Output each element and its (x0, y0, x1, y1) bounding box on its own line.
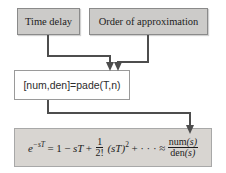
ellipsis: · · · (140, 142, 157, 154)
plus-sign: + (86, 142, 92, 154)
order-of-approximation-box: Order of approximation (89, 8, 208, 35)
approx-sign: ≈ (159, 142, 165, 154)
fraction-num-over-den: num(s) den(s) (168, 137, 198, 159)
pade-series-formula: e−sT = 1 − sT + 1 2! (sT)2 + · · · ≈ num… (28, 137, 198, 159)
term-one: 1 (56, 142, 62, 154)
minus-sign: − (64, 142, 70, 154)
connector-order-to-pade (118, 35, 148, 63)
plus-sign-2: + (131, 142, 137, 154)
pade-diagram: Time delay Order of approximation [num,d… (0, 0, 226, 173)
formula-box: e−sT = 1 − sT + 1 2! (sT)2 + · · · ≈ num… (14, 128, 212, 167)
term-sT-squared: (sT)2 (107, 141, 128, 154)
pade-command-box: [num,den]=pade(T,n) (14, 70, 130, 100)
connector-pade-to-formula (48, 100, 190, 126)
time-delay-label: Time delay (25, 16, 72, 27)
time-delay-box: Time delay (17, 8, 80, 35)
pade-command-code: [num,den]=pade(T,n) (23, 79, 120, 91)
fraction-one-over-2-factorial: 1 2! (95, 137, 105, 159)
term-sT: sT (73, 142, 83, 154)
exp-term: e−sT (28, 141, 45, 154)
connector-time-delay-to-pade (48, 35, 110, 63)
equals-sign: = (48, 142, 54, 154)
order-of-approximation-label: Order of approximation (99, 16, 199, 27)
